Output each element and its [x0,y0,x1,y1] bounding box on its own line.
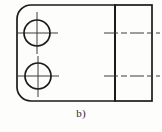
technical-drawing-figure: b) [0,0,162,132]
figure-caption: b) [0,106,162,120]
side-view-outline [115,5,152,101]
front-view-group [17,5,115,101]
side-view-group [104,5,160,101]
